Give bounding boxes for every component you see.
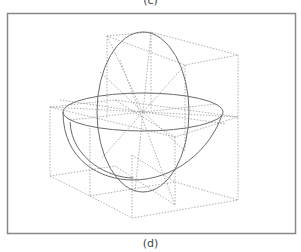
figure-frame bbox=[8, 14, 296, 234]
sphere-construction-diagram bbox=[0, 0, 301, 252]
hemisphere-outline bbox=[63, 112, 222, 180]
dotted-construction-lines bbox=[50, 32, 238, 218]
figure-caption-d: (d) bbox=[0, 237, 301, 250]
